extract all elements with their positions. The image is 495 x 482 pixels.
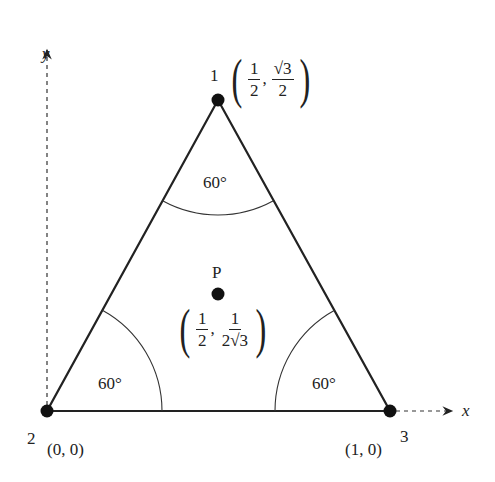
point-p-coord: ( 12 , 12√3 ) [176,302,270,356]
vertex-2-label: 2 [27,430,36,447]
triangle [47,100,390,411]
vertex-1-dot [212,94,225,107]
x-axis-label: x [462,402,470,419]
vertex-3-coord: (1, 0) [345,441,382,458]
angle-label-top: 60° [203,174,227,191]
vertex-1-label: 1 [210,67,219,84]
y-axis-label: y [42,45,50,62]
equilateral-triangle-diagram: y x 1 ( 12 , √32 ) 2 (0, 0) 3 (1, 0) P (… [0,0,495,482]
vertex-2-dot [41,405,54,418]
angle-label-left: 60° [98,375,122,392]
vertex-1-coord: ( 12 , √32 ) [228,52,314,106]
angle-arc-right [275,310,335,411]
vertex-3-label: 3 [400,428,409,445]
vertex-2-coord: (0, 0) [47,441,84,458]
angle-arc-top [163,201,274,215]
point-p-label: P [212,264,221,281]
point-p-dot [212,288,225,301]
vertex-3-dot [384,405,397,418]
angle-arc-left [102,310,162,411]
angle-label-right: 60° [312,375,336,392]
